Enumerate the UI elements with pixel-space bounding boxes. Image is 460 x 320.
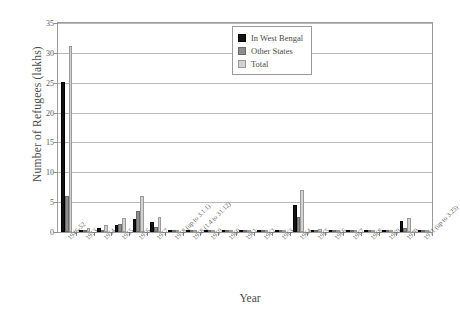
y-tick-label: 10 [46, 168, 54, 177]
y-tick-label: 30 [46, 48, 54, 57]
bar-group [200, 23, 218, 232]
bar-group [76, 23, 94, 232]
bar-group [183, 23, 201, 232]
bar-group [396, 23, 414, 232]
bar-group [129, 23, 147, 232]
legend-label: Other States [251, 46, 293, 56]
bar-group [361, 23, 379, 232]
y-tick-label: 35 [46, 19, 54, 28]
bar-group [343, 23, 361, 232]
bar-group [379, 23, 397, 232]
y-axis-title: Number of Refugees (lakhs) [31, 0, 43, 229]
legend-swatch-total [238, 60, 246, 68]
bar-group [147, 23, 165, 232]
bar-group [58, 23, 76, 232]
y-tick-label: 20 [46, 108, 54, 117]
legend-swatch-other-states [238, 47, 246, 55]
bar-group [94, 23, 112, 232]
bar-group [414, 23, 432, 232]
bar [300, 190, 304, 232]
bar [140, 196, 144, 232]
bar [69, 46, 73, 232]
legend-item: Other States [238, 44, 303, 57]
bar-group [165, 23, 183, 232]
legend-label: Total [251, 59, 268, 69]
bar-group [111, 23, 129, 232]
y-tick-mark [54, 232, 58, 233]
chart-legend: In West Bengal Other States Total [232, 26, 312, 75]
bar-group [325, 23, 343, 232]
legend-item: Total [238, 57, 303, 70]
legend-item: In West Bengal [238, 31, 303, 44]
legend-label: In West Bengal [251, 33, 303, 43]
y-tick-label: 15 [46, 138, 54, 147]
y-tick-label: 25 [46, 78, 54, 87]
legend-swatch-in-west-bengal [238, 34, 246, 42]
x-axis-title: Year [60, 292, 440, 304]
